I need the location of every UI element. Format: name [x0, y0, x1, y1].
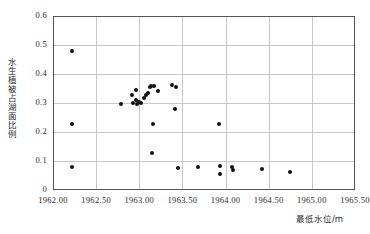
gridline-vertical: [269, 17, 270, 189]
gridline-vertical: [312, 17, 313, 189]
data-point: [146, 91, 150, 95]
gridline-vertical: [96, 17, 97, 189]
gridline-horizontal: [54, 132, 354, 133]
y-tick-label: 0.1: [13, 155, 47, 165]
y-tick-label: 0.2: [13, 126, 47, 136]
data-point: [134, 88, 138, 92]
data-point: [218, 172, 222, 176]
data-point: [217, 122, 221, 126]
y-tick-label: 0.3: [13, 97, 47, 107]
data-point: [196, 165, 200, 169]
x-tick-label: 1965.50: [329, 195, 370, 205]
y-tick-label: 0.4: [13, 68, 47, 78]
y-tick-label: 0.5: [13, 39, 47, 49]
data-point: [139, 101, 143, 105]
scatter-chart: 水生植被占湖面比例 最低水位/m 00.10.20.30.40.50.6 196…: [0, 0, 370, 234]
data-point: [150, 151, 154, 155]
data-point: [260, 167, 264, 171]
data-point: [70, 122, 74, 126]
x-axis-label: 最低水位/m: [296, 212, 343, 224]
data-point: [119, 102, 123, 106]
y-tick-label: 0: [13, 184, 47, 194]
gridline-vertical: [226, 17, 227, 189]
gridline-horizontal: [54, 161, 354, 162]
gridline-horizontal: [54, 45, 354, 46]
y-tick-label: 0.6: [13, 10, 47, 20]
data-point: [174, 85, 178, 89]
gridline-vertical: [182, 17, 183, 189]
gridline-horizontal: [54, 74, 354, 75]
gridline-horizontal: [54, 103, 354, 104]
data-point: [218, 164, 222, 168]
data-point: [151, 122, 155, 126]
